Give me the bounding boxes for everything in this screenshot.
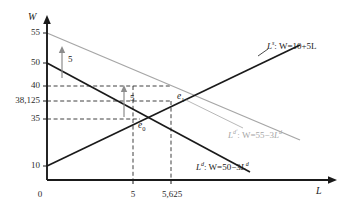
y-tick-55: 55 [10,28,40,37]
y-tick-35: 35 [10,114,40,123]
wage-labor-market-chart: W L 55 50 40 38,125 35 10 0 5 5,625 5 5 … [0,0,354,210]
chart-plot-area [0,0,354,210]
demand-equation-a: : W=50−3 [204,162,241,172]
shift-amount-mid: 5 [130,94,135,103]
demand-curve-label: Ld: W=50−3Ld [196,161,249,172]
y-tick-50: 50 [10,58,40,67]
supply-curve [47,45,300,166]
demand-shifted-equation-b-superscript: d [279,129,282,135]
x-tick-5: 5 [121,190,145,199]
x-tick-5625: 5,625 [153,190,191,199]
x-axis-label: L [316,186,322,196]
demand-shifted-curve-label: Ldʹ: W=55−3Ld [228,129,282,140]
dashed-guides [47,86,171,180]
e0-subscript: 0 [142,125,145,132]
supply-equation: : W=10+5L [274,41,316,51]
y-tick-38125: 38,125 [0,96,40,105]
x-axis [47,176,337,184]
equilibrium-label-e0: e0 [138,121,145,132]
demand-equation-b-superscript: d [246,161,249,167]
shift-amount-left: 5 [68,55,73,64]
equilibrium-label-e1: e1 [177,92,184,103]
y-tick-40: 40 [10,81,40,90]
y-axis-label: W [28,12,36,22]
demand-shifted-equation-a: : W=55−3 [237,130,274,140]
demand-shifted-curve [47,33,300,140]
origin-label: 0 [30,190,50,199]
e1-subscript: 1 [181,96,184,103]
y-axis [43,15,51,180]
supply-curve-label: Ls: W=10+5L [267,40,317,51]
y-tick-10: 10 [10,161,40,170]
